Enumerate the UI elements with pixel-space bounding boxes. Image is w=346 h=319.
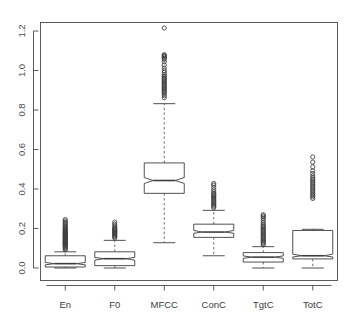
box-group-ConC xyxy=(194,181,234,255)
box-group-TgtC xyxy=(243,213,283,268)
y-tick-label-0.6: 0.6 xyxy=(16,143,27,156)
box-group-TotC xyxy=(293,155,333,268)
outlier-TotC-18 xyxy=(311,160,315,164)
outlier-MFCC-30 xyxy=(162,26,166,30)
x-tick-label-ConC: ConC xyxy=(202,299,226,310)
y-tick-label-1.0: 1.0 xyxy=(16,64,27,77)
y-tick-label-0.0: 0.0 xyxy=(16,261,27,274)
box-En xyxy=(45,256,85,267)
x-tick-label-MFCC: MFCC xyxy=(151,299,179,310)
x-tick-label-F0: F0 xyxy=(109,299,120,310)
boxplot-figure: 0.00.20.40.60.81.01.2EnF0MFCCConCTgtCTot… xyxy=(0,0,346,319)
y-tick-label-0.2: 0.2 xyxy=(16,222,27,235)
box-MFCC xyxy=(144,163,184,193)
y-tick-label-0.4: 0.4 xyxy=(16,182,27,195)
box-group-En xyxy=(45,218,85,268)
box-group-F0 xyxy=(95,220,135,268)
box-group-MFCC xyxy=(144,26,184,243)
box-TotC xyxy=(293,230,333,258)
outlier-TotC-19 xyxy=(311,155,315,159)
x-tick-label-En: En xyxy=(59,299,71,310)
y-tick-label-0.8: 0.8 xyxy=(16,103,27,116)
boxplot-svg: 0.00.20.40.60.81.01.2EnF0MFCCConCTgtCTot… xyxy=(0,0,346,319)
x-tick-label-TgtC: TgtC xyxy=(253,299,274,310)
box-ConC xyxy=(194,224,234,237)
y-tick-label-1.2: 1.2 xyxy=(16,24,27,37)
x-tick-label-TotC: TotC xyxy=(303,299,323,310)
